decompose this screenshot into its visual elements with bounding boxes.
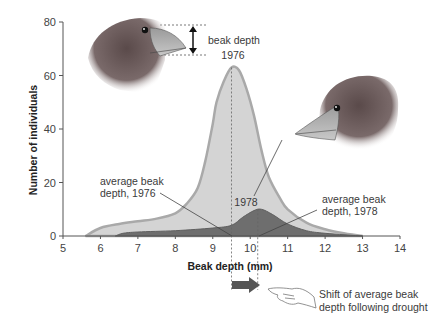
avg-1976-label-line2: depth, 1976 [100,187,156,199]
x-tick-label: 13 [356,242,368,254]
x-tick-label: 14 [394,242,406,254]
y-axis-title: Number of individuals [27,85,39,195]
y-tick-label: 0 [50,230,56,242]
x-tick-label: 5 [60,242,66,254]
y-tick-label: 80 [44,16,56,28]
y-tick-label: 40 [44,123,56,135]
y-ticks: 020406080 [44,16,63,242]
finch-head-icon [88,18,186,94]
shift-label-line1: Shift of average beak [319,288,419,300]
x-tick-label: 11 [282,242,293,254]
x-tick-label: 8 [172,242,178,254]
x-tick-label: 7 [135,242,141,254]
pointing-hand-icon [268,288,316,308]
finch-head-icon [295,76,398,150]
y-tick-label: 60 [44,70,56,82]
x-axis-title: Beak depth (mm) [187,260,272,272]
x-tick-label: 6 [97,242,103,254]
avg-1978-label-line1: average beak [322,193,386,205]
chart-canvas: 567891011121314 020406080 Beak depth (mm… [0,0,437,334]
beak-depth-label: beak depth [208,34,260,46]
x-tick-label: 12 [319,242,331,254]
year-1978-label: 1978 [234,196,258,208]
x-ticks: 567891011121314 [60,236,406,254]
x-tick-label: 10 [244,242,256,254]
year-1976-label: 1976 [221,49,245,61]
avg-1976-label-line1: average beak [100,175,164,187]
shift-label-line2: depth following drought [319,301,428,313]
avg-1978-label-line2: depth, 1978 [322,205,378,217]
y-tick-label: 20 [44,177,56,189]
right-arrow-icon [232,277,260,293]
x-tick-label: 9 [210,242,216,254]
